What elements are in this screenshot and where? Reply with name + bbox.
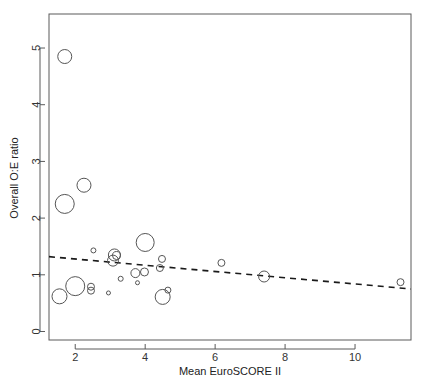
study-bubble [397,279,404,286]
study-bubble [118,276,123,281]
x-tick-label: 2 [72,351,78,363]
y-tick-label: 4 [30,102,42,108]
y-tick-label: 1 [30,272,42,278]
study-bubble [66,277,85,296]
study-bubble [55,194,74,213]
study-bubble [131,269,140,278]
study-bubble [106,291,110,295]
x-tick-label: 10 [349,351,361,363]
x-tick-label: 6 [212,351,218,363]
study-bubble [58,50,72,64]
study-bubble [52,289,67,304]
study-bubble [218,259,225,266]
plot-frame [49,14,411,340]
y-tick-label: 0 [30,328,42,334]
x-axis: 246810 [72,344,361,363]
study-bubble [156,265,163,272]
plot-canvas: 012345 246810 Mean EuroSCORE II Overall … [0,0,428,386]
y-tick-label: 2 [30,215,42,221]
trend-line [49,257,411,289]
x-tick-label: 4 [142,351,148,363]
x-axis-title: Mean EuroSCORE II [179,365,281,377]
study-bubble [140,268,148,276]
study-bubble [135,281,139,285]
y-tick-label: 3 [30,158,42,164]
y-tick-label: 5 [30,45,42,51]
study-bubble [158,255,165,262]
study-bubble [77,178,91,192]
study-bubble [155,289,170,304]
study-bubble [136,233,154,251]
study-bubble [259,271,270,282]
regression-bubble-plot: 012345 246810 Mean EuroSCORE II Overall … [0,0,428,386]
y-axis-title: Overall O:E ratio [8,137,20,218]
study-bubble [91,248,96,253]
y-axis: 012345 [30,45,45,335]
x-tick-label: 8 [282,351,288,363]
data-points [52,50,404,305]
